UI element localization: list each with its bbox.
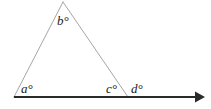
arrowhead-icon	[195, 92, 205, 103]
geometry-figure: a° b° c° d°	[0, 0, 211, 109]
angle-label-d: d°	[131, 82, 143, 95]
angle-label-b: b°	[57, 14, 69, 27]
angle-label-a: a°	[21, 82, 33, 95]
angle-label-c: c°	[106, 82, 117, 95]
triangle-right-side	[63, 2, 128, 97]
